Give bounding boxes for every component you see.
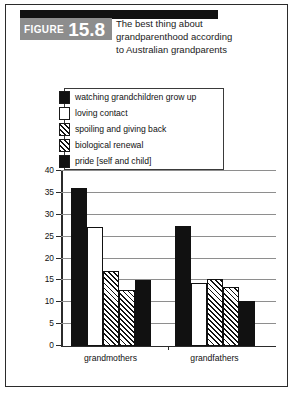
- y-axis-tick: [56, 279, 61, 280]
- bar: [71, 188, 87, 346]
- figure-number: 15.8: [68, 20, 105, 39]
- legend-item: loving contact: [65, 105, 223, 121]
- legend-swatch-icon: [59, 139, 70, 152]
- bar: [191, 283, 207, 346]
- bar: [207, 279, 223, 346]
- y-axis-tick: [56, 236, 61, 237]
- legend-swatch-icon: [59, 91, 70, 104]
- y-axis-tick-label: 25: [45, 231, 54, 241]
- y-axis-tick-label: 30: [45, 209, 54, 219]
- bar: [103, 271, 119, 345]
- legend-item-label: biological renewal: [75, 140, 143, 150]
- legend-swatch-icon: [59, 155, 70, 168]
- bar-group: [71, 171, 151, 346]
- bar: [223, 287, 239, 345]
- y-axis-tick: [56, 258, 61, 259]
- legend-swatch-icon: [59, 123, 70, 136]
- chart-legend: watching grandchildren grow uploving con…: [64, 88, 224, 170]
- legend-item: pride [self and child]: [65, 153, 223, 169]
- y-axis-tick-label: 10: [45, 296, 54, 306]
- y-axis-tick-label: 40: [45, 165, 54, 175]
- legend-item: biological renewal: [65, 137, 223, 153]
- legend-item: watching grandchildren grow up: [65, 89, 223, 105]
- legend-item-label: loving contact: [75, 108, 128, 118]
- y-axis-tick: [56, 192, 61, 193]
- figure-title: The best thing about grandparenthood acc…: [116, 17, 281, 57]
- bar: [87, 227, 103, 345]
- bar-group: [175, 171, 255, 346]
- legend-item-label: pride [self and child]: [75, 156, 151, 166]
- x-axis-tick: [168, 346, 169, 350]
- y-axis-tick: [56, 214, 61, 215]
- y-axis-tick-label: 15: [45, 274, 54, 284]
- figure-badge: FIGURE 15.8: [20, 18, 112, 40]
- figure-title-line-1: The best thing about: [116, 17, 281, 30]
- legend-item-label: spoiling and giving back: [75, 124, 166, 134]
- y-axis-tick: [56, 301, 61, 302]
- y-axis-tick-label: 35: [45, 187, 54, 197]
- bar: [135, 280, 151, 346]
- bar: [175, 226, 191, 345]
- legend-swatch-icon: [59, 107, 70, 120]
- y-axis-tick-label: 0: [49, 340, 54, 350]
- legend-item-label: watching grandchildren grow up: [75, 92, 196, 102]
- bar: [119, 290, 135, 346]
- y-axis-tick: [56, 345, 61, 346]
- legend-item: spoiling and giving back: [65, 121, 223, 137]
- x-axis-tick-label: grandfathers: [190, 353, 238, 363]
- bars-container: [63, 171, 276, 346]
- y-axis-tick-label: 20: [45, 253, 54, 263]
- figure-title-line-2: grandparenthood according: [116, 30, 281, 43]
- y-axis-tick: [56, 323, 61, 324]
- figure-frame: FIGURE 15.8 The best thing about grandpa…: [5, 4, 288, 387]
- x-axis-tick-label: grandmothers: [84, 353, 137, 363]
- y-axis-tick: [56, 170, 61, 171]
- bar: [239, 301, 255, 346]
- y-axis-tick-label: 5: [49, 318, 54, 328]
- plot-area: 0510152025303540 grandmothersgrandfather…: [61, 170, 276, 347]
- figure-label: FIGURE: [24, 24, 64, 35]
- figure-title-line-3: to Australian grandparents: [116, 43, 281, 56]
